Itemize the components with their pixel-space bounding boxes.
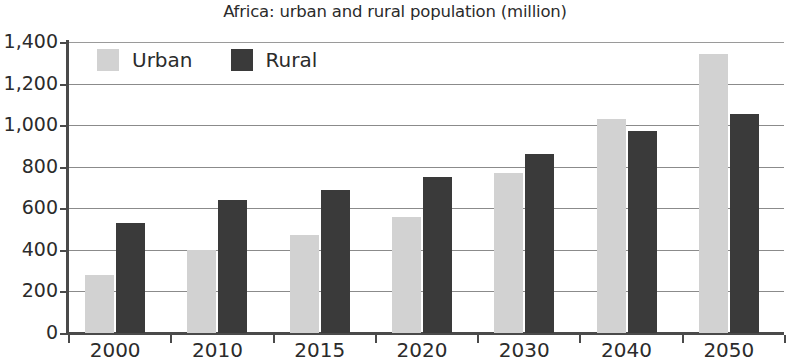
bar-group [290,42,350,333]
x-axis-tick [68,335,70,343]
x-axis-tick-label: 2020 [367,338,477,362]
y-axis-tick-label: 200 [2,281,58,300]
bar-rural-2040 [628,131,657,333]
bar-urban-2040 [597,119,626,333]
bar-urban-2020 [392,217,421,333]
bar-rural-2015 [321,190,350,333]
legend-label-urban: Urban [132,48,193,72]
x-axis-tick-label: 2040 [572,338,682,362]
y-axis-tick-label: 1,200 [2,74,58,93]
y-axis-tick-label: 600 [2,198,58,217]
x-axis-tick-label: 2010 [162,338,272,362]
x-axis-tick [375,335,377,343]
x-axis-tick [579,335,581,343]
legend-item-rural: Rural [231,48,318,72]
y-axis-tick-labels: 02004006008001,0001,2001,400 [0,0,58,364]
bar-group [597,42,657,333]
bar-rural-2030 [525,154,554,333]
bar-urban-2015 [290,235,319,333]
bar-groups [68,42,784,333]
bar-urban-2030 [494,173,523,333]
y-axis-tick [60,125,69,127]
plot-area [68,42,784,333]
bar-group [392,42,452,333]
y-axis-tick [60,291,69,293]
x-axis-tick-label: 2000 [60,338,170,362]
y-axis-tick-label: 0 [2,323,58,342]
legend-swatch-urban [97,49,119,71]
bar-urban-2010 [187,250,216,333]
chart-title: Africa: urban and rural population (mill… [0,2,790,21]
bar-rural-2020 [423,177,452,333]
bar-rural-2000 [116,223,145,333]
y-axis-tick-label: 400 [2,240,58,259]
bar-group [85,42,145,333]
x-axis-tick [682,335,684,343]
x-axis-tick-label: 2030 [469,338,579,362]
y-axis-tick [60,250,69,252]
bar-group [699,42,759,333]
x-axis-tick [273,335,275,343]
bar-chart: Africa: urban and rural population (mill… [0,0,790,364]
x-axis-tick [477,335,479,343]
y-axis-tick-label: 1,400 [2,32,58,51]
bar-urban-2000 [85,275,114,333]
bar-urban-2050 [699,54,728,333]
y-axis-tick [60,208,69,210]
x-axis-tick [170,335,172,343]
bar-rural-2010 [218,200,247,333]
y-axis-tick-label: 800 [2,157,58,176]
y-axis-tick-label: 1,000 [2,115,58,134]
y-axis-tick [60,333,69,335]
y-axis-tick [60,42,69,44]
bar-group [494,42,554,333]
x-axis-tick-label: 2050 [674,338,784,362]
legend-swatch-rural [231,49,253,71]
x-axis-tick-label: 2015 [265,338,375,362]
y-axis-tick [60,167,69,169]
y-axis-tick [60,84,69,86]
legend-label-rural: Rural [266,48,318,72]
bar-group [187,42,247,333]
bar-rural-2050 [730,114,759,333]
chart-legend: UrbanRural [97,48,317,72]
x-axis-tick [784,335,786,343]
legend-item-urban: Urban [97,48,193,72]
